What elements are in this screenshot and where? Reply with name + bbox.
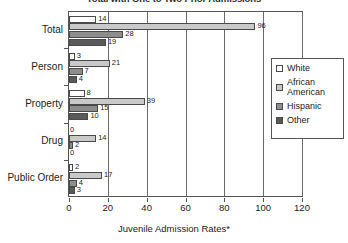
y-axis-category-label: Property: [0, 98, 63, 109]
y-axis-tick: [64, 160, 68, 161]
legend-label: Other: [287, 115, 310, 125]
chart-title: Total with One to Two Prior Admissions: [0, 0, 348, 4]
white-swatch: [276, 65, 283, 72]
other-swatch: [276, 117, 283, 124]
x-axis-title: Juvenile Admission Rates*: [0, 223, 348, 234]
y-axis-category-label: Public Order: [0, 172, 63, 183]
chart-legend: WhiteAfrican AmericanHispanicOther: [271, 58, 344, 139]
y-axis-tick: [64, 48, 68, 49]
x-axis-tick-label: 40: [132, 202, 162, 213]
legend-item: White: [276, 63, 343, 73]
y-axis-category-label: Drug: [0, 135, 63, 146]
y-axis-tick: [64, 85, 68, 86]
legend-label: African American: [287, 77, 325, 97]
legend-item: African American: [276, 77, 343, 97]
y-axis-category-label: Total: [0, 24, 63, 35]
legend-label: White: [287, 63, 310, 73]
hispanic-swatch: [276, 103, 283, 110]
legend-item: Hispanic: [276, 101, 343, 111]
x-axis-tick-label: 60: [171, 202, 201, 213]
legend-label: Hispanic: [287, 101, 322, 111]
african-american-swatch: [276, 84, 283, 91]
x-axis-ticks: 020406080100120: [0, 198, 348, 214]
x-axis-tick-label: 80: [209, 202, 239, 213]
x-axis-tick-label: 100: [248, 202, 278, 213]
x-axis-tick-label: 0: [54, 202, 84, 213]
x-axis-tick-label: 20: [93, 202, 123, 213]
y-axis-tick: [64, 123, 68, 124]
bar-chart: Total with One to Two Prior Admissions 1…: [0, 0, 348, 243]
y-axis-category-label: Person: [0, 61, 63, 72]
legend-item: Other: [276, 115, 343, 125]
x-axis-tick-label: 120: [287, 202, 317, 213]
